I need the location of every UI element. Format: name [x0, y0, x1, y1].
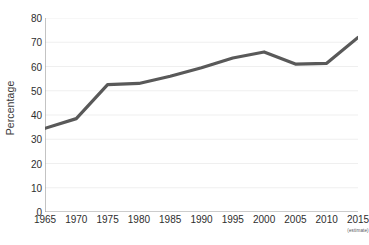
x-tick-label-group: 1975: [96, 214, 118, 226]
x-tick-label: 1980: [128, 214, 150, 226]
y-axis-tick-labels: 01020304050607080: [18, 0, 42, 245]
y-tick-label: 20: [31, 158, 42, 169]
y-tick-label: 40: [31, 110, 42, 121]
x-tick-label-group: 2010: [316, 214, 338, 226]
x-tick-label: 2000: [253, 214, 275, 226]
x-tick-label: 1990: [190, 214, 212, 226]
estimate-note: (estimate): [347, 227, 369, 234]
y-axis-title: Percentage: [0, 0, 20, 215]
x-tick-label-group: 1970: [65, 214, 87, 226]
y-tick-label: 50: [31, 85, 42, 96]
x-tick-label: 1985: [159, 214, 181, 226]
x-tick-label: 2015: [347, 214, 369, 226]
y-tick-label: 30: [31, 134, 42, 145]
plot-svg: [45, 18, 358, 212]
x-tick-label-group: 1965: [34, 214, 56, 226]
x-tick-label-group: 2015(estimate): [347, 214, 369, 234]
x-tick-label: 1965: [34, 214, 56, 226]
x-tick-label-group: 2000: [253, 214, 275, 226]
y-axis-title-text: Percentage: [4, 80, 16, 135]
x-tick-label: 1995: [222, 214, 244, 226]
x-tick-label: 1970: [65, 214, 87, 226]
plot-area: [45, 18, 358, 212]
y-tick-label: 80: [31, 13, 42, 24]
y-tick-label: 60: [31, 61, 42, 72]
x-tick-label-group: 1980: [128, 214, 150, 226]
y-tick-label: 10: [31, 182, 42, 193]
x-tick-label-group: 2005: [284, 214, 306, 226]
x-tick-label-group: 1985: [159, 214, 181, 226]
x-tick-label: 1975: [96, 214, 118, 226]
x-tick-label: 2010: [316, 214, 338, 226]
x-tick-label-group: 1990: [190, 214, 212, 226]
y-tick-label: 70: [31, 37, 42, 48]
x-tick-label: 2005: [284, 214, 306, 226]
x-axis-tick-labels: 1965197019751980198519901995200020052010…: [45, 214, 358, 245]
x-tick-label-group: 1995: [222, 214, 244, 226]
